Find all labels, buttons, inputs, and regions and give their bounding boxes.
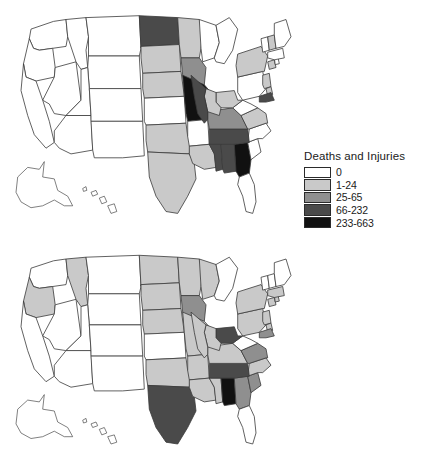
state-sd xyxy=(141,283,181,311)
state-az xyxy=(54,351,92,388)
state-hi xyxy=(108,204,117,214)
state-ar xyxy=(188,354,210,380)
state-id xyxy=(66,257,89,306)
state-hi xyxy=(99,196,107,204)
legend-label: 233-663 xyxy=(336,217,374,229)
state-tx xyxy=(148,385,196,444)
legend-row: 1-24 xyxy=(304,179,405,192)
state-wa xyxy=(29,259,67,288)
legend-label: 0 xyxy=(336,166,342,178)
legend-label: 66-232 xyxy=(336,204,368,216)
state-mt xyxy=(86,255,141,293)
legend-row: 66-232 xyxy=(304,204,405,217)
state-nm xyxy=(91,121,144,158)
state-ks xyxy=(144,96,186,125)
state-id xyxy=(66,18,89,70)
state-nm xyxy=(91,356,144,391)
state-al xyxy=(221,378,236,406)
state-nd xyxy=(139,16,179,49)
state-mn xyxy=(178,257,203,295)
legend-swatch xyxy=(304,204,331,215)
state-ar xyxy=(188,119,210,146)
state-sd xyxy=(141,45,181,74)
state-nd xyxy=(139,255,179,286)
state-nj xyxy=(263,73,271,88)
state-ak xyxy=(16,162,73,208)
legend-label: 1-24 xyxy=(336,179,357,191)
map-damage xyxy=(0,240,300,469)
legend-deaths-injuries: Deaths and Injuries 01-2425-6566-232233-… xyxy=(304,150,405,229)
state-ne xyxy=(143,309,185,335)
legend-row: 233-663 xyxy=(304,216,405,229)
state-mt xyxy=(86,16,141,56)
legend-rows: 01-2425-6566-232233-663 xyxy=(304,166,405,229)
state-tx xyxy=(148,152,196,213)
state-ks xyxy=(144,332,186,360)
legend-swatch xyxy=(304,192,331,203)
state-hi xyxy=(91,422,98,428)
legend-row: 0 xyxy=(304,166,405,179)
state-wy xyxy=(88,56,141,89)
state-hi xyxy=(83,187,87,192)
state-hi xyxy=(108,435,117,444)
state-fl xyxy=(238,173,256,213)
state-wa xyxy=(29,20,67,51)
legend-label: 25-65 xyxy=(336,191,362,203)
us-map-svg-top xyxy=(0,0,300,240)
panel-deaths-injuries: Deaths and Injuries 01-2425-6566-232233-… xyxy=(0,0,421,240)
state-hi xyxy=(91,190,98,196)
state-ne xyxy=(143,71,185,98)
state-tn xyxy=(209,129,249,144)
legend-row: 25-65 xyxy=(304,191,405,204)
state-mn xyxy=(178,18,203,58)
state-fl xyxy=(238,406,256,444)
state-co xyxy=(89,325,142,356)
state-hi xyxy=(83,418,87,423)
state-al xyxy=(221,144,236,173)
figure-two-choropleth-maps: Deaths and Injuries 01-2425-6566-232233-… xyxy=(0,0,421,469)
state-me xyxy=(274,259,291,287)
state-ok xyxy=(146,358,191,387)
state-hi xyxy=(99,428,107,435)
state-me xyxy=(274,20,291,49)
legend-title: Deaths and Injuries xyxy=(304,150,405,162)
legend-swatch xyxy=(304,217,331,228)
legend-swatch xyxy=(304,179,331,190)
state-wy xyxy=(88,294,141,325)
us-map-svg-bottom xyxy=(0,240,300,469)
state-tn xyxy=(209,363,249,378)
state-ak xyxy=(16,395,73,439)
map-deaths-injuries xyxy=(0,0,300,240)
legend-swatch xyxy=(304,167,331,178)
state-az xyxy=(54,116,92,154)
state-nj xyxy=(263,310,271,325)
panel-damage: Damage (millions $) 00.01-2.182.19-12.68… xyxy=(0,240,421,469)
state-ok xyxy=(146,123,191,154)
state-co xyxy=(89,89,142,122)
